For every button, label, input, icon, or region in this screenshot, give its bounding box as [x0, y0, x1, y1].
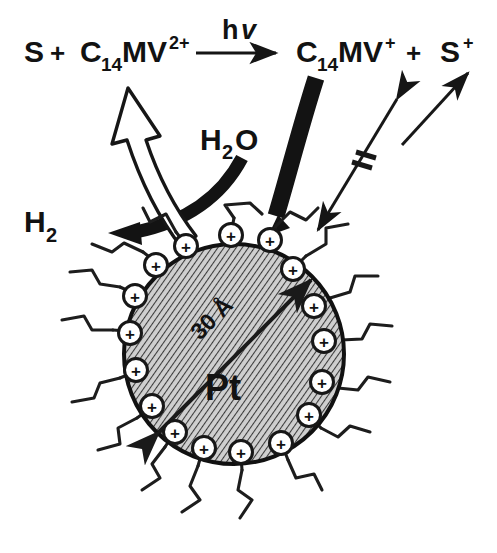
positive-charge-glyph: + [265, 232, 275, 251]
positive-charge-glyph: + [131, 362, 141, 381]
surfactant-head-group: + [298, 404, 321, 427]
surfactant-head-group: + [303, 295, 326, 318]
positive-charge-glyph: + [288, 261, 298, 280]
surfactant-head-group: + [193, 437, 216, 460]
sensitizer-regeneration-arrow [402, 73, 468, 145]
surfactant-head-group: + [124, 285, 147, 308]
positive-charge-glyph: + [130, 288, 140, 307]
hydrogen-label-subscript: 2 [46, 224, 57, 246]
positive-charge-glyph: + [181, 238, 191, 257]
positive-charge-glyph: + [236, 444, 246, 463]
equation-viologen-reactant-subscript: 14 [101, 54, 123, 75]
surfactant-head-group: + [282, 258, 305, 281]
positive-charge-glyph: + [151, 257, 161, 276]
equation-sensitizer: S [24, 35, 44, 68]
hydrogen-label-h: H [24, 205, 46, 238]
surfactant-head-group: + [259, 229, 282, 252]
equation-viologen-reactant-charge: 2+ [169, 33, 190, 53]
water-label-o: O [235, 123, 258, 156]
positive-charge-glyph: + [226, 227, 236, 246]
equation-viologen-reactant-c: C [80, 35, 102, 68]
equation-viologen-reactant-mv: MV [122, 35, 167, 68]
positive-charge-glyph: + [125, 325, 135, 344]
block-bar-upper [356, 152, 376, 158]
surfactant-head-group: + [141, 395, 164, 418]
surfactant-head-group: + [313, 330, 336, 353]
reaction-equation: S + C 14 MV 2+ h v C 14 MV + + S + [24, 15, 474, 75]
surfactant-head-group: + [220, 224, 243, 247]
photon-label-nu: v [241, 15, 258, 45]
equation-viologen-product-mv: MV [338, 35, 383, 68]
equation-plus-1: + [50, 38, 65, 68]
equation-plus-2: + [406, 38, 421, 68]
positive-charge-glyph: + [304, 407, 314, 426]
positive-charge-glyph: + [319, 333, 329, 352]
equation-sensitizer-product-charge: + [463, 33, 474, 53]
surfactant-head-group: + [125, 359, 148, 382]
photon-label-h: h [222, 15, 239, 45]
equation-viologen-product-subscript: 14 [317, 54, 339, 75]
positive-charge-glyph: + [147, 398, 157, 417]
positive-charge-glyph: + [317, 374, 327, 393]
positive-charge-glyph: + [309, 298, 319, 317]
diagram-canvas: S + C 14 MV 2+ h v C 14 MV + + S + [0, 0, 497, 553]
surfactant-head-group: + [311, 371, 334, 394]
surfactant-head-group: + [164, 421, 187, 444]
water-label-subscript: 2 [222, 141, 233, 163]
surfactant-head-group: + [270, 432, 293, 455]
surfactant-head-group: + [119, 322, 142, 345]
positive-charge-glyph: + [199, 440, 209, 459]
equation-viologen-product-c: C [296, 35, 318, 68]
surfactant-head-group: + [145, 254, 168, 277]
surfactant-head-group: + [175, 235, 198, 258]
equation-sensitizer-product: S [440, 35, 460, 68]
surfactant-head-group: + [230, 441, 253, 464]
blocked-back-reaction [318, 99, 397, 230]
equation-viologen-product-charge: + [385, 33, 396, 53]
positive-charge-glyph: + [276, 435, 286, 454]
particle-core-label: Pt [205, 367, 241, 408]
figure-root: S + C 14 MV 2+ h v C 14 MV + + S + [0, 0, 497, 553]
water-label-h: H [200, 123, 222, 156]
positive-charge-glyph: + [170, 424, 180, 443]
